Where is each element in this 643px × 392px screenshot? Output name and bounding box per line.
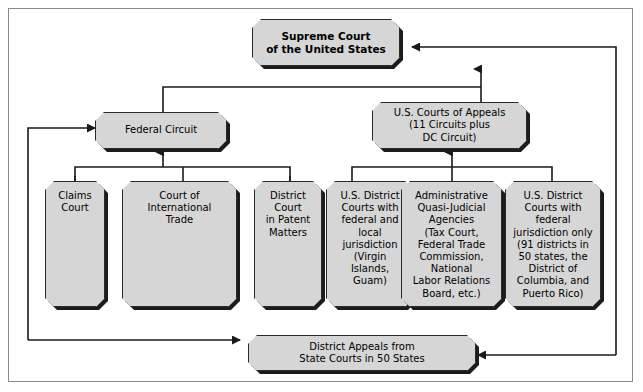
node-label: U.S. District Courts with federal and lo… <box>336 190 403 288</box>
node-federal-circuit[interactable]: Federal Circuit <box>95 112 227 149</box>
node-label: Court of International Trade <box>144 190 216 227</box>
node-label: U.S. Courts of Appeals (11 Circuits plus… <box>390 107 510 144</box>
node-label: Claims Court <box>54 190 96 214</box>
node-label: Administrative Quasi-Judicial Agencies (… <box>409 190 494 300</box>
node-label: Supreme Court of the United States <box>262 30 390 56</box>
node-supreme-court[interactable]: Supreme Court of the United States <box>252 19 400 66</box>
node-administrative-quasi-judicial-agencies[interactable]: Administrative Quasi-Judicial Agencies (… <box>401 181 502 307</box>
node-district-court-patent-matters[interactable]: District Court in Patent Matters <box>254 181 322 307</box>
node-court-of-international-trade[interactable]: Court of International Trade <box>122 181 237 307</box>
node-district-courts-federal-only[interactable]: U.S. District Courts with federal jurisd… <box>505 181 601 307</box>
node-claims-court[interactable]: Claims Court <box>45 181 105 307</box>
node-label: U.S. District Courts with federal jurisd… <box>509 190 596 300</box>
node-district-courts-federal-and-local[interactable]: U.S. District Courts with federal and lo… <box>326 181 414 307</box>
node-courts-of-appeals[interactable]: U.S. Courts of Appeals (11 Circuits plus… <box>372 102 527 149</box>
node-label: District Court in Patent Matters <box>262 190 314 239</box>
node-label: District Appeals from State Courts in 50… <box>295 341 428 365</box>
court-system-diagram: Supreme Court of the United States Feder… <box>0 0 643 392</box>
node-label: Federal Circuit <box>121 124 201 136</box>
node-district-appeals-state-courts[interactable]: District Appeals from State Courts in 50… <box>248 335 476 371</box>
